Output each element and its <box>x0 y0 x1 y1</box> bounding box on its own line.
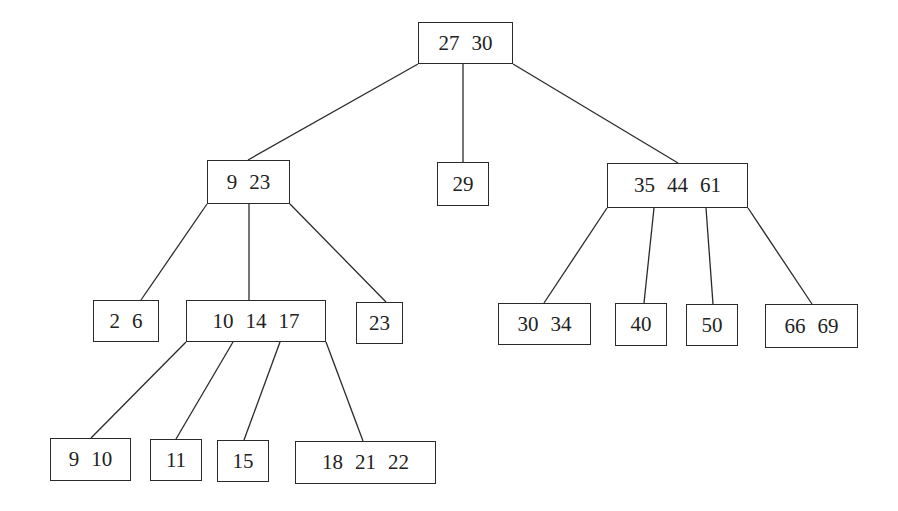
node-key: 23 <box>249 170 270 195</box>
node-key: 30 <box>472 31 493 56</box>
node-key: 15 <box>233 449 254 474</box>
node-key: 35 <box>634 173 655 198</box>
tree-node-root: 2730 <box>418 22 513 64</box>
node-key: 9 <box>69 447 80 472</box>
tree-edge <box>290 204 386 302</box>
tree-node-n15: 15 <box>217 440 269 482</box>
tree-node-n35_44_61: 354461 <box>607 163 748 208</box>
node-key: 10 <box>91 447 112 472</box>
tree-edges <box>0 0 898 511</box>
node-key: 10 <box>213 309 234 334</box>
node-key: 9 <box>227 170 238 195</box>
tree-node-n2_6: 26 <box>93 300 159 342</box>
node-key: 21 <box>355 450 376 475</box>
tree-edge <box>326 342 363 441</box>
node-key: 11 <box>166 448 186 473</box>
tree-node-n30_34: 3034 <box>498 303 591 345</box>
tree-edge <box>706 208 713 304</box>
tree-edge <box>176 342 233 439</box>
tree-edge <box>244 342 280 440</box>
tree-edge <box>544 208 607 303</box>
tree-edge <box>513 64 678 163</box>
node-key: 22 <box>388 450 409 475</box>
node-key: 2 <box>110 309 121 334</box>
tree-node-n9_23: 923 <box>207 160 290 204</box>
tree-node-n40: 40 <box>615 303 667 346</box>
node-key: 29 <box>453 172 474 197</box>
node-key: 69 <box>818 314 839 339</box>
node-key: 66 <box>785 314 806 339</box>
node-key: 44 <box>667 173 688 198</box>
node-key: 50 <box>702 313 723 338</box>
node-key: 30 <box>518 312 539 337</box>
tree-node-n23: 23 <box>356 302 403 344</box>
node-key: 17 <box>279 309 300 334</box>
tree-node-n9_10: 910 <box>50 438 131 481</box>
node-key: 61 <box>700 173 721 198</box>
tree-edge <box>248 64 418 160</box>
node-key: 23 <box>369 311 390 336</box>
node-key: 27 <box>439 31 460 56</box>
tree-edge <box>644 208 654 303</box>
tree-node-n29: 29 <box>437 162 489 206</box>
tree-node-n10_14_17: 101417 <box>186 300 326 342</box>
tree-node-n11: 11 <box>150 439 202 481</box>
tree-edge <box>91 342 186 438</box>
node-key: 18 <box>322 450 343 475</box>
tree-node-n50: 50 <box>686 304 738 346</box>
tree-node-n18_21_22: 182122 <box>295 441 436 484</box>
node-key: 40 <box>631 312 652 337</box>
node-key: 34 <box>551 312 572 337</box>
tree-edge <box>141 204 207 300</box>
node-key: 14 <box>246 309 267 334</box>
node-key: 6 <box>132 309 143 334</box>
tree-edge <box>748 208 812 304</box>
tree-node-n66_69: 6669 <box>765 304 858 348</box>
